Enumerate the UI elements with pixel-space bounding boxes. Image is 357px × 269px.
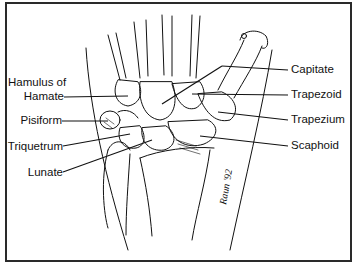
label-hamulus-of-hamate: Hamulus of Hamate bbox=[8, 76, 64, 103]
leader-scaphoid bbox=[200, 136, 288, 146]
label-capitate: Capitate bbox=[291, 63, 334, 76]
scaphoid-shape bbox=[168, 120, 216, 146]
leader-hamulus bbox=[64, 96, 128, 97]
artist-signature: Raun '92 bbox=[217, 168, 234, 206]
label-hamulus-line2: Hamate bbox=[8, 90, 64, 103]
hamate-shape bbox=[115, 80, 141, 106]
metacarpal-5 bbox=[108, 33, 126, 80]
label-lunate: Lunate bbox=[8, 166, 63, 179]
metacarpal-4 bbox=[134, 20, 148, 78]
metacarpal-2 bbox=[190, 15, 200, 78]
leader-capitate bbox=[222, 66, 288, 70]
label-trapezoid: Trapezoid bbox=[291, 88, 342, 101]
label-triquetrum: Triquetrum bbox=[4, 140, 63, 153]
trapezoid-shape bbox=[172, 82, 204, 109]
leader-lines bbox=[62, 66, 288, 172]
lunate-shape bbox=[142, 126, 174, 150]
triquetrum-shape bbox=[119, 126, 144, 148]
ulna bbox=[103, 150, 130, 235]
metacarpal-3 bbox=[162, 15, 172, 76]
forearm-outline-left bbox=[86, 48, 128, 250]
leader-lunate bbox=[63, 140, 152, 172]
label-scaphoid: Scaphoid bbox=[291, 139, 339, 152]
leader-trapezium bbox=[218, 112, 288, 120]
forearm-outline-right bbox=[230, 50, 272, 250]
wrist-bones-illustration: Raun '92 bbox=[0, 0, 357, 269]
label-trapezium: Trapezium bbox=[291, 113, 345, 126]
metacarpal-1 bbox=[218, 40, 262, 98]
radius bbox=[140, 150, 210, 240]
capitate-shape bbox=[140, 82, 175, 120]
leader-trapezoid bbox=[192, 94, 288, 95]
label-hamulus-line1: Hamulus of bbox=[8, 76, 64, 89]
label-pisiform: Pisiform bbox=[8, 114, 62, 127]
